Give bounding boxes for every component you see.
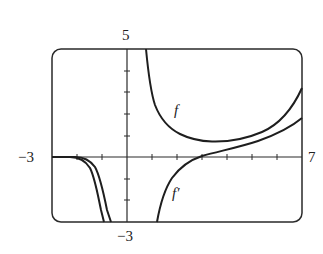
- f-curve-label: f: [174, 103, 178, 118]
- curve-f-right: [146, 49, 302, 142]
- y-max-label: 5: [122, 28, 130, 43]
- x-min-label: −3: [18, 150, 34, 165]
- y-min-label: −3: [117, 229, 133, 244]
- x-max-label: 7: [308, 150, 316, 165]
- graph-canvas: [0, 0, 323, 254]
- curve-fprime-left: [52, 157, 104, 222]
- fprime-curve-label: f′: [172, 186, 179, 201]
